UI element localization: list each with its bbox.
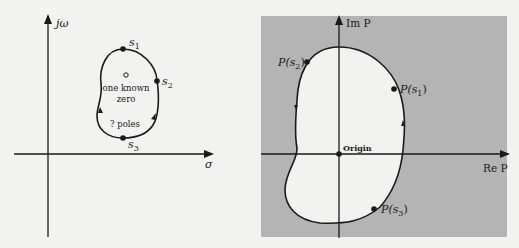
point-s2 <box>154 78 160 84</box>
label-s2: s2 <box>162 75 173 90</box>
label-p-s3: P(s3) <box>380 203 408 218</box>
point-s1 <box>120 46 126 52</box>
point-p-s1 <box>391 86 397 92</box>
p-contour <box>285 47 404 223</box>
origin-point <box>336 151 342 157</box>
zero-marker-icon <box>124 73 128 77</box>
diagram-canvas: jω σ s1 s2 s3 one known zero ? poles Im … <box>0 0 519 248</box>
point-s3 <box>120 135 126 141</box>
im-p-axis-label: Im P <box>346 17 371 29</box>
label-p-s1: P(s1) <box>399 83 427 98</box>
point-p-s3 <box>371 206 377 212</box>
jw-axis-label: jω <box>53 17 68 30</box>
zero-text-line1: one known <box>103 83 150 93</box>
label-p-s2: P(s2) <box>277 56 305 71</box>
re-p-axis-label: Re P <box>483 162 508 174</box>
label-s3: s3 <box>128 138 139 153</box>
point-p-s2 <box>304 59 310 65</box>
label-s1: s1 <box>129 36 140 51</box>
sigma-axis-label: σ <box>205 158 213 171</box>
origin-label: Origin <box>343 143 372 153</box>
zero-text-line2: zero <box>117 94 136 104</box>
poles-text: ? poles <box>110 119 140 129</box>
